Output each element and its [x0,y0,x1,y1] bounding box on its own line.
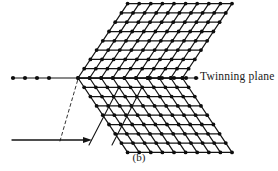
lattice-node [194,39,198,43]
lattice-node [212,30,216,34]
lattice-node [107,123,111,127]
lattice-node [189,141,193,145]
lattice-node [172,76,176,80]
lattice-node [224,141,228,145]
lattice-node [194,76,198,80]
lattice-node [200,123,204,127]
lattice-node [148,76,152,80]
lattice-twinning-diagram [0,0,278,171]
lattice-node [187,85,191,89]
lattice-node [159,113,163,117]
lattice-node [89,95,93,99]
lattice-node [160,132,164,136]
lattice-node [119,30,123,34]
lattice-node [201,141,205,145]
lattice-node [195,132,199,136]
lattice-node [82,67,86,71]
lattice-node [181,95,185,99]
lattice-node [219,2,223,6]
lattice-node [154,30,158,34]
lattice-node [126,2,130,6]
lattice-node [194,113,198,117]
lattice-node [193,58,197,62]
lattice-node [154,123,158,127]
lattice-node [101,39,105,43]
lattice-node [137,2,141,6]
lattice-node [166,141,170,145]
lattice-node [130,123,134,127]
lattice-node [140,67,144,71]
lattice-node [95,48,99,52]
lattice-node [161,2,165,6]
lattice-node [125,20,129,24]
lattice-node [171,132,175,136]
lattice-node [184,2,188,6]
lattice-node [147,113,151,117]
lattice-node [206,132,210,136]
lattice-node [11,76,15,80]
lattice-node [149,2,153,6]
lattice-node [131,11,135,15]
lattice-node [95,104,99,108]
lattice-node [230,2,234,6]
lattice-node [141,48,145,52]
lattice-node [136,113,140,117]
lattice-node [118,48,122,52]
lattice-node [153,104,157,108]
upper-lattice-group [76,2,234,80]
lattice-node [188,123,192,127]
lattice-node [195,20,199,24]
panel-caption: (b) [0,151,278,163]
lattice-node [137,132,141,136]
lattice-node [164,104,168,108]
lattice-node [224,11,228,15]
lattice-node [199,48,203,52]
lattice-node [147,58,151,62]
guide-line [60,79,78,141]
lattice-node [166,11,170,15]
lattice-node [218,20,222,24]
lattice-node [207,2,211,6]
lattice-node [130,48,134,52]
lattice-node [47,76,51,80]
lattice-node [113,113,117,117]
lattice-node [188,30,192,34]
lattice-node [141,104,145,108]
lattice-node [131,141,135,145]
lattice-node [23,76,27,80]
lattice-node [176,104,180,108]
lattice-node [94,85,98,89]
lattice-node [212,123,216,127]
lattice-node [89,58,93,62]
lattice-node [201,11,205,15]
dashed-guide-line [60,79,78,141]
lattice-node [120,141,124,145]
lattice-node [143,11,147,15]
lattice-node [136,39,140,43]
lattice-node [129,85,133,89]
lattice-node [106,85,110,89]
lattice-node [165,123,169,127]
lattice-node [159,39,163,43]
shear-direction-arrow [12,137,92,143]
lattice-node [118,104,122,108]
lattice-node [178,11,182,15]
lattice-node [189,11,193,15]
lattice-node [188,104,192,108]
lattice-node [125,132,129,136]
lattice-node [165,30,169,34]
lattice-node [195,2,199,6]
lattice-node [123,95,127,99]
lattice-node [200,30,204,34]
lattice-node [147,95,151,99]
lattice-node [158,58,162,62]
lattice-node [135,58,139,62]
lattice-node [183,20,187,24]
lattice-node [199,104,203,108]
lattice-node [107,30,111,34]
lower-twin-lattice-group [76,76,234,154]
lattice-node [170,58,174,62]
lattice-node [181,58,185,62]
lattice-node [137,20,141,24]
lattice-node [187,67,191,71]
